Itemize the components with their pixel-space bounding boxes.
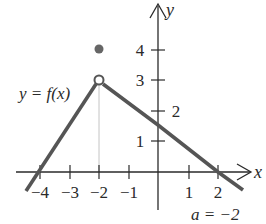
y-axis-label: y	[164, 0, 174, 20]
svg-text:−3: −3	[61, 183, 79, 202]
svg-text:−1: −1	[120, 183, 138, 202]
svg-text:1: 1	[136, 132, 145, 151]
svg-text:−4: −4	[31, 183, 50, 202]
function-label: y = f(x)	[17, 84, 70, 103]
svg-text:−2: −2	[90, 183, 108, 202]
open-point	[95, 76, 104, 85]
svg-text:3: 3	[136, 71, 145, 90]
curve-right-piece	[103, 84, 243, 190]
filled-point	[95, 45, 104, 54]
function-graph: x y −4 −3 −2 −1 1 2 1 2 3 4	[0, 0, 266, 224]
x-axis-label: x	[253, 162, 262, 182]
svg-text:2: 2	[172, 102, 181, 121]
x-tick-labels: −4 −3 −2 −1 1 2	[31, 183, 222, 202]
annotation-a: a = −2	[191, 205, 240, 224]
svg-text:2: 2	[214, 183, 223, 202]
y-axis: y	[150, 0, 174, 210]
svg-text:4: 4	[136, 41, 145, 60]
svg-text:1: 1	[185, 183, 194, 202]
